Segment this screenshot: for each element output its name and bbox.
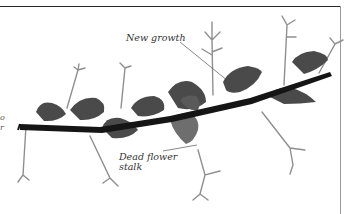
dead-flower-stalk-label-line2: stalk [119,162,177,172]
new-growth-label: New growth [126,33,186,43]
dead-flower-stalk-label: Dead flower stalk [119,152,177,172]
left-edge-partial-text: o r [0,113,5,133]
left-edge-char-1: o [0,113,5,123]
left-edge-char-2: r [0,123,5,133]
